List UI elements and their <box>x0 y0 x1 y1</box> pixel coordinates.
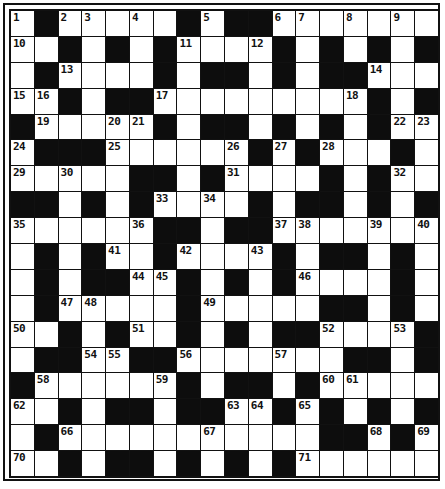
answer-square[interactable] <box>82 399 105 424</box>
answer-square[interactable] <box>225 37 248 62</box>
answer-square[interactable] <box>106 11 129 36</box>
answer-square[interactable] <box>368 140 391 165</box>
answer-square[interactable]: 2 <box>59 11 82 36</box>
answer-square[interactable]: 50 <box>11 322 34 347</box>
answer-square[interactable]: 20 <box>106 115 129 140</box>
answer-square[interactable] <box>154 425 177 450</box>
answer-square[interactable] <box>201 244 224 269</box>
answer-square[interactable]: 11 <box>177 37 200 62</box>
answer-square[interactable] <box>249 115 272 140</box>
answer-square[interactable] <box>177 140 200 165</box>
answer-square[interactable]: 3 <box>82 11 105 36</box>
answer-square[interactable] <box>415 166 438 191</box>
answer-square[interactable]: 16 <box>35 89 58 114</box>
answer-square[interactable] <box>130 244 153 269</box>
answer-square[interactable]: 7 <box>296 11 319 36</box>
answer-square[interactable]: 70 <box>11 451 34 476</box>
answer-square[interactable]: 45 <box>154 270 177 295</box>
answer-square[interactable] <box>35 37 58 62</box>
answer-square[interactable] <box>320 270 343 295</box>
answer-square[interactable] <box>106 166 129 191</box>
answer-square[interactable] <box>130 140 153 165</box>
answer-square[interactable] <box>82 115 105 140</box>
answer-square[interactable]: 28 <box>320 140 343 165</box>
answer-square[interactable]: 26 <box>225 140 248 165</box>
answer-square[interactable]: 13 <box>59 63 82 88</box>
answer-square[interactable] <box>106 192 129 217</box>
answer-square[interactable] <box>391 348 414 373</box>
answer-square[interactable]: 44 <box>130 270 153 295</box>
answer-square[interactable] <box>82 425 105 450</box>
answer-square[interactable] <box>273 166 296 191</box>
answer-square[interactable] <box>320 451 343 476</box>
answer-square[interactable]: 32 <box>391 166 414 191</box>
answer-square[interactable] <box>130 296 153 321</box>
answer-square[interactable]: 48 <box>82 296 105 321</box>
answer-square[interactable] <box>35 451 58 476</box>
answer-square[interactable] <box>106 425 129 450</box>
answer-square[interactable]: 4 <box>130 11 153 36</box>
answer-square[interactable] <box>344 451 367 476</box>
answer-square[interactable] <box>11 296 34 321</box>
answer-square[interactable] <box>225 244 248 269</box>
answer-square[interactable] <box>130 37 153 62</box>
answer-square[interactable] <box>320 11 343 36</box>
answer-square[interactable]: 69 <box>415 425 438 450</box>
answer-square[interactable]: 29 <box>11 166 34 191</box>
answer-square[interactable] <box>249 296 272 321</box>
answer-square[interactable] <box>106 296 129 321</box>
answer-square[interactable] <box>177 89 200 114</box>
answer-square[interactable]: 60 <box>320 373 343 398</box>
answer-square[interactable] <box>344 140 367 165</box>
answer-square[interactable] <box>225 348 248 373</box>
answer-square[interactable]: 1 <box>11 11 34 36</box>
answer-square[interactable]: 5 <box>201 11 224 36</box>
answer-square[interactable] <box>296 296 319 321</box>
answer-square[interactable]: 18 <box>344 89 367 114</box>
answer-square[interactable] <box>130 63 153 88</box>
answer-square[interactable]: 24 <box>11 140 34 165</box>
answer-square[interactable] <box>82 89 105 114</box>
answer-square[interactable] <box>296 425 319 450</box>
answer-square[interactable] <box>11 244 34 269</box>
answer-square[interactable] <box>82 166 105 191</box>
answer-square[interactable] <box>296 244 319 269</box>
answer-square[interactable]: 40 <box>415 218 438 243</box>
answer-square[interactable]: 27 <box>273 140 296 165</box>
answer-square[interactable] <box>225 296 248 321</box>
answer-square[interactable] <box>35 322 58 347</box>
answer-square[interactable] <box>130 425 153 450</box>
answer-square[interactable] <box>177 166 200 191</box>
answer-square[interactable] <box>106 218 129 243</box>
answer-square[interactable] <box>154 451 177 476</box>
answer-square[interactable]: 37 <box>273 218 296 243</box>
answer-square[interactable] <box>415 296 438 321</box>
answer-square[interactable] <box>391 218 414 243</box>
answer-square[interactable] <box>273 425 296 450</box>
answer-square[interactable] <box>35 166 58 191</box>
answer-square[interactable] <box>391 89 414 114</box>
answer-square[interactable] <box>344 399 367 424</box>
answer-square[interactable] <box>59 373 82 398</box>
answer-square[interactable]: 46 <box>296 270 319 295</box>
answer-square[interactable] <box>11 63 34 88</box>
answer-square[interactable]: 33 <box>154 192 177 217</box>
answer-square[interactable] <box>177 63 200 88</box>
answer-square[interactable]: 30 <box>59 166 82 191</box>
answer-square[interactable]: 53 <box>391 322 414 347</box>
answer-square[interactable] <box>59 192 82 217</box>
answer-square[interactable] <box>344 115 367 140</box>
answer-square[interactable] <box>368 451 391 476</box>
answer-square[interactable] <box>59 115 82 140</box>
answer-square[interactable] <box>154 296 177 321</box>
answer-square[interactable] <box>344 218 367 243</box>
answer-square[interactable]: 61 <box>344 373 367 398</box>
answer-square[interactable] <box>415 11 438 36</box>
answer-square[interactable] <box>368 244 391 269</box>
answer-square[interactable] <box>368 373 391 398</box>
answer-square[interactable] <box>249 322 272 347</box>
answer-square[interactable] <box>201 348 224 373</box>
answer-square[interactable] <box>35 399 58 424</box>
answer-square[interactable] <box>415 373 438 398</box>
answer-square[interactable] <box>296 115 319 140</box>
